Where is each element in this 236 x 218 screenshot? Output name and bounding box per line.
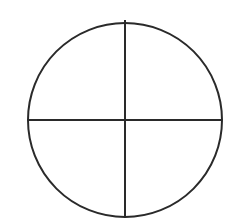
- quartered-circle-diagram: [0, 0, 236, 218]
